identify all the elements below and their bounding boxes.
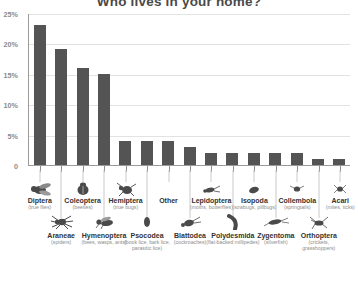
moth-icon: [196, 181, 226, 197]
bar[interactable]: [98, 74, 110, 165]
y-axis-tick-label: 15%: [0, 70, 18, 79]
bar[interactable]: [333, 159, 345, 165]
label-connector-line: [104, 170, 105, 218]
bar-slot: [179, 14, 200, 165]
bar[interactable]: [34, 25, 46, 165]
bar[interactable]: [162, 141, 174, 165]
bar-slot: [329, 14, 350, 165]
label-connector-line: [168, 170, 169, 182]
bar[interactable]: [119, 141, 131, 165]
label-connector-line: [147, 170, 148, 218]
spider-icon: [46, 214, 76, 230]
bar-slot: [115, 14, 136, 165]
bar-slot: [157, 14, 178, 165]
taxon-common-name: (crickets, grasshoppers): [292, 240, 346, 252]
sowbug-icon: [239, 181, 269, 197]
beetle-icon: [68, 181, 98, 197]
bar[interactable]: [291, 153, 303, 165]
bar-slot: [50, 14, 71, 165]
plot-area: 05%10%15%20%25%: [28, 14, 350, 166]
y-axis-tick-label: 20%: [0, 40, 18, 49]
bar-slot: [136, 14, 157, 165]
y-axis-tick-label: 25%: [0, 10, 18, 19]
bar[interactable]: [269, 153, 281, 165]
bar[interactable]: [226, 153, 238, 165]
bar[interactable]: [55, 49, 67, 165]
label-connector-line: [189, 170, 190, 218]
bar[interactable]: [184, 147, 196, 165]
true-bug-icon: [111, 181, 141, 197]
chart-title: Who lives in your home?: [0, 0, 358, 9]
taxon-common-name: (mites, ticks): [313, 205, 358, 211]
bar-chart: Who lives in your home? 05%10%15%20%25% …: [0, 0, 358, 286]
label-connector-line: [61, 170, 62, 218]
bar-slot: [93, 14, 114, 165]
y-axis-tick-label: 5%: [0, 131, 18, 140]
bar-slot: [29, 14, 50, 165]
label-connector-line: [232, 170, 233, 218]
cockroach-icon: [175, 214, 205, 230]
bar-slot: [200, 14, 221, 165]
y-axis-tick-label: 10%: [0, 101, 18, 110]
silverfish-icon: [261, 214, 291, 230]
bar-slot: [72, 14, 93, 165]
bar[interactable]: [77, 68, 89, 165]
bar-slot: [307, 14, 328, 165]
label-connector-line: [275, 170, 276, 218]
fly-icon: [25, 181, 55, 197]
label-connector-line: [318, 170, 319, 218]
bar[interactable]: [205, 153, 217, 165]
wasp-icon: [89, 214, 119, 230]
millipede-icon: [218, 214, 248, 230]
bar[interactable]: [248, 153, 260, 165]
bar-slot: [222, 14, 243, 165]
mite-icon: [325, 181, 355, 197]
x-axis-labels: Diptera(true flies)Araneae(spiders)Coleo…: [29, 170, 351, 286]
bar[interactable]: [141, 141, 153, 165]
bar-slot: [264, 14, 285, 165]
cricket-icon: [304, 214, 334, 230]
bar-slot: [286, 14, 307, 165]
y-axis-tick-label: 0: [0, 162, 18, 171]
bar-series: [29, 14, 350, 165]
bar-slot: [243, 14, 264, 165]
springtail-icon: [282, 181, 312, 197]
taxon-common-name: (true bugs): [99, 205, 153, 211]
bar[interactable]: [312, 159, 324, 165]
booklouse-icon: [132, 214, 162, 230]
